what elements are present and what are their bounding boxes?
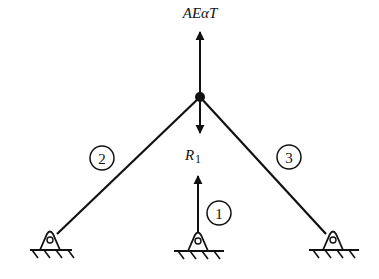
- pin-support-left: [30, 232, 74, 259]
- svg-text:3: 3: [285, 150, 293, 166]
- member-3-label: 3: [277, 145, 301, 169]
- reaction-label: R1: [184, 147, 201, 166]
- pin-support-right: [309, 232, 359, 259]
- force-label-aeat: AEαT: [182, 5, 219, 21]
- member-2-label: 2: [90, 146, 114, 170]
- member-1-label: 1: [207, 201, 231, 225]
- member-2-bar: [57, 97, 200, 234]
- svg-text:1: 1: [215, 206, 223, 222]
- truss-diagram: AEαT R1 2 3 1: [0, 0, 379, 279]
- pin-support-middle: [174, 233, 224, 260]
- joint-node: [195, 92, 205, 102]
- svg-text:2: 2: [98, 151, 106, 167]
